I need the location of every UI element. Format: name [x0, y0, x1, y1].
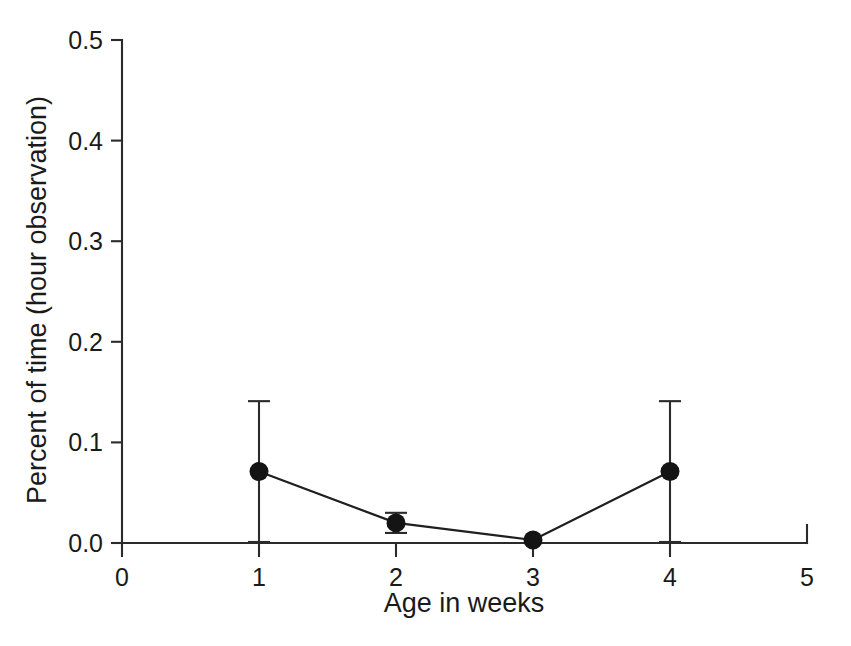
- y-tick-label-0.5: 0.5: [68, 26, 103, 54]
- x-tick-label-3: 3: [526, 563, 540, 591]
- x-tick-label-4: 4: [663, 563, 677, 591]
- figure-container: 0.00.10.20.30.40.5 012345 Age in weeks P…: [0, 0, 851, 646]
- data-point-week-3: [524, 530, 543, 549]
- x-tick-label-1: 1: [252, 563, 266, 591]
- line-chart: 0.00.10.20.30.40.5 012345 Age in weeks P…: [0, 0, 851, 646]
- y-tick-label-0.3: 0.3: [68, 227, 103, 255]
- data-point-week-2: [387, 513, 406, 532]
- y-tick-label-0.4: 0.4: [68, 127, 103, 155]
- x-tick-label-2: 2: [389, 563, 403, 591]
- x-tick-label-0: 0: [115, 563, 129, 591]
- x-tick-label-5: 5: [800, 563, 814, 591]
- chart-background: [0, 0, 851, 646]
- y-tick-label-0.2: 0.2: [68, 328, 103, 356]
- y-tick-label-0.0: 0.0: [68, 529, 103, 557]
- x-axis-title: Age in weeks: [384, 588, 545, 618]
- data-point-week-4: [661, 462, 680, 481]
- y-axis-title: Percent of time (hour observation): [22, 96, 52, 504]
- y-tick-label-0.1: 0.1: [68, 428, 103, 456]
- data-point-week-1: [250, 462, 269, 481]
